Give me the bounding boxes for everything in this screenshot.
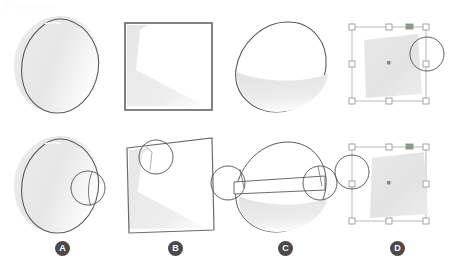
handle-middle-left[interactable]	[349, 61, 355, 67]
panel-label-d: D	[390, 241, 405, 256]
header-caption: 図 7 形状編集の例	[3, 1, 55, 10]
figure-container: 図 7 形状編集の例	[0, 0, 452, 265]
panel-a-bottom	[14, 136, 105, 233]
handle-top-left[interactable]	[349, 24, 355, 30]
panel-b-top	[125, 23, 212, 110]
panel-label-row: A B C D	[0, 236, 452, 265]
handle-bottom-center[interactable]	[386, 218, 392, 224]
handle-top-right[interactable]	[423, 24, 429, 30]
panel-label-b: B	[168, 241, 183, 256]
rotation-handle[interactable]	[406, 144, 413, 149]
panel-a-top	[14, 16, 100, 113]
panel-d-bottom-center-marker	[387, 181, 391, 185]
panel-c-top-fill	[237, 72, 328, 112]
handle-bottom-left[interactable]	[349, 218, 355, 224]
handle-bottom-left[interactable]	[349, 98, 355, 104]
panel-d-top-center-marker	[387, 61, 391, 65]
handle-middle-left[interactable]	[349, 181, 355, 187]
panel-c-top	[236, 22, 328, 112]
handle-bottom-right[interactable]	[423, 98, 429, 104]
panel-label-c: C	[278, 241, 293, 256]
handle-bottom-right[interactable]	[423, 218, 429, 224]
panel-d-bottom	[335, 144, 429, 224]
panel-c-bottom-fill	[239, 196, 327, 232]
handle-top-right[interactable]	[423, 144, 429, 150]
handle-bottom-center[interactable]	[386, 98, 392, 104]
panel-c-bottom-band	[234, 176, 325, 194]
handle-middle-right[interactable]	[423, 181, 429, 187]
figure-canvas	[0, 0, 452, 265]
panel-c-bottom	[211, 142, 337, 232]
handle-top-left[interactable]	[349, 144, 355, 150]
rotation-handle[interactable]	[406, 24, 413, 29]
panel-b-bottom	[127, 138, 214, 233]
handle-top-center[interactable]	[386, 24, 392, 30]
handle-top-center[interactable]	[386, 144, 392, 150]
handle-middle-right[interactable]	[423, 61, 429, 67]
panel-d-bottom-shape[interactable]	[370, 152, 428, 218]
panel-d-top	[349, 24, 444, 104]
panel-label-a: A	[55, 241, 70, 256]
